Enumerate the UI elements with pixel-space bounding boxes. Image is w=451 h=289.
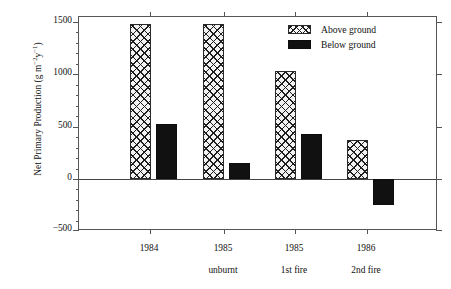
x-tick-label-1984: 1984 <box>109 243 189 253</box>
x-tick-top-4 <box>367 12 368 17</box>
y-minor-tick <box>76 189 80 190</box>
x-tick-3 <box>295 229 296 234</box>
legend-label-above-ground: Above ground <box>321 24 376 35</box>
y-tick-0 <box>73 179 79 180</box>
x-tick-label-1985-unburnt: 1985 <box>183 243 263 253</box>
legend-item-below-ground: Below ground <box>288 37 428 52</box>
x-tick-2 <box>224 229 225 234</box>
bar-above-ground-1984 <box>130 24 151 179</box>
y-tick-1000 <box>73 74 79 75</box>
y-tick-label-neg500: −500 <box>32 224 72 233</box>
bar-above-ground-1985-1st-fire <box>275 71 296 179</box>
y-tick-right-1500 <box>436 22 442 23</box>
y-minor-tick <box>76 64 80 65</box>
y-minor-tick <box>76 116 80 117</box>
x-tick-4 <box>367 229 368 234</box>
x-sublabel-2nd-fire: 2nd fire <box>326 265 406 275</box>
legend-item-above-ground: Above ground <box>288 22 428 37</box>
x-tick-1 <box>150 229 151 234</box>
y-tick-right-500 <box>436 127 442 128</box>
y-axis-title-suffix: ) <box>33 42 43 45</box>
x-tick-top-1 <box>150 12 151 17</box>
y-axis-title-exponent-1: −2 <box>31 57 38 64</box>
y-tick-right-1000 <box>436 74 442 75</box>
y-minor-tick <box>76 148 80 149</box>
y-tick-1500 <box>73 22 79 23</box>
x-sublabel-unburnt: unburnt <box>183 265 263 275</box>
y-minor-tick <box>76 210 80 211</box>
y-tick-500 <box>73 127 79 128</box>
bar-below-ground-1985-1st-fire <box>301 134 322 179</box>
bar-below-ground-1985-unburnt <box>229 163 250 179</box>
y-minor-tick <box>76 32 80 33</box>
legend-label-below-ground: Below ground <box>321 39 376 50</box>
y-minor-tick <box>76 221 80 222</box>
y-minor-tick <box>76 53 80 54</box>
chart-legend: Above ground Below ground <box>288 22 428 52</box>
y-tick-label-1500: 1500 <box>32 16 72 25</box>
y-tick-right-0 <box>436 179 442 180</box>
y-tick-neg500 <box>73 230 79 231</box>
y-minor-tick <box>76 43 80 44</box>
y-minor-tick <box>76 158 80 159</box>
y-minor-tick <box>76 137 80 138</box>
y-minor-tick <box>76 85 80 86</box>
y-axis-title-mid: y <box>33 53 43 58</box>
solid-black-swatch-icon <box>288 40 311 49</box>
chart-figure: Net Primary Production (g m−2y−1) <box>0 0 451 289</box>
x-sublabel-1st-fire: 1st fire <box>254 265 334 275</box>
x-tick-top-3 <box>295 12 296 17</box>
x-tick-top-2 <box>224 12 225 17</box>
bar-above-ground-1985-unburnt <box>203 24 224 179</box>
bar-below-ground-1986-2nd-fire <box>373 179 394 205</box>
crosshatch-swatch-icon <box>288 25 311 34</box>
x-tick-label-1986-2nd-fire: 1986 <box>326 243 406 253</box>
y-tick-label-0: 0 <box>32 173 72 182</box>
y-minor-tick <box>76 95 80 96</box>
y-axis-title-exponent-2: −1 <box>31 45 38 52</box>
bar-below-ground-1984 <box>156 124 177 179</box>
y-minor-tick <box>76 200 80 201</box>
y-tick-right-neg500 <box>436 230 442 231</box>
y-minor-tick <box>76 106 80 107</box>
y-tick-label-500: 500 <box>32 121 72 130</box>
bar-above-ground-1986-2nd-fire <box>347 140 368 179</box>
y-minor-tick <box>76 169 80 170</box>
x-tick-label-1985-1st-fire: 1985 <box>254 243 334 253</box>
y-tick-label-1000: 1000 <box>32 68 72 77</box>
